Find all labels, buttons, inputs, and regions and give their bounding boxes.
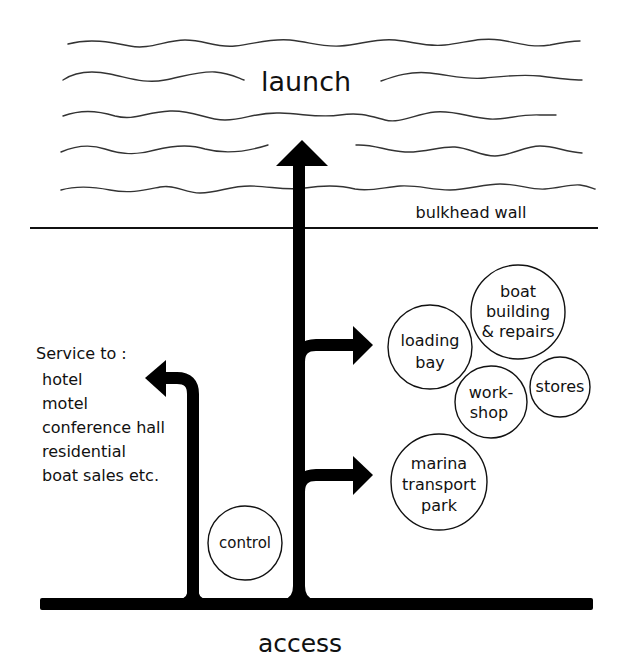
wave-row-2-left xyxy=(63,72,244,81)
wave-row-4-right xyxy=(356,145,582,156)
shaft-base-fillet xyxy=(284,586,314,599)
workshop-circle xyxy=(455,366,527,438)
water-waves xyxy=(61,39,595,193)
arrow-right-icon xyxy=(353,326,373,365)
node-label: bay xyxy=(415,353,444,372)
wave-row-3 xyxy=(63,111,556,121)
marina-flow-diagram: launch bulkhead wall Service to : hotel … xyxy=(0,0,621,663)
access-label: access xyxy=(258,629,342,658)
node-label: park xyxy=(421,496,458,515)
node-label: work- xyxy=(469,383,514,402)
wave-row-4-left xyxy=(61,145,268,154)
node-label: boat xyxy=(500,282,536,301)
launch-arrow xyxy=(276,140,328,600)
branch-arrow-shaft-1 xyxy=(299,345,355,362)
arrow-left-icon xyxy=(145,360,166,397)
node-control: control xyxy=(208,506,282,580)
wave-row-5 xyxy=(61,184,595,193)
service-item: residential xyxy=(42,442,126,461)
node-label: & repairs xyxy=(482,322,555,341)
service-base-fillet xyxy=(180,588,206,599)
wave-row-2-right xyxy=(381,73,582,81)
node-marina-transport-park: marina transport park xyxy=(391,434,487,530)
node-label: stores xyxy=(536,377,585,396)
service-item: conference hall xyxy=(42,418,165,437)
node-stores: stores xyxy=(530,357,590,417)
wave-row-1 xyxy=(68,39,580,47)
branch-arrow-loading-bay xyxy=(299,326,373,365)
branch-arrow-shaft-2 xyxy=(299,475,355,492)
service-list: Service to : hotel motel conference hall… xyxy=(36,344,165,485)
node-label: building xyxy=(486,302,550,321)
access-road-bar xyxy=(40,598,593,610)
node-label: transport xyxy=(402,475,476,494)
node-boat-building: boat building & repairs xyxy=(471,265,565,359)
node-workshop: work- shop xyxy=(455,366,527,438)
service-item: boat sales etc. xyxy=(42,466,159,485)
service-item: hotel xyxy=(42,370,83,389)
bulkhead-wall-label: bulkhead wall xyxy=(416,203,527,222)
service-item: motel xyxy=(42,394,88,413)
branch-arrow-marina xyxy=(299,456,373,495)
node-label: loading xyxy=(401,331,460,350)
launch-label: launch xyxy=(261,66,351,97)
arrow-right-icon xyxy=(353,456,373,495)
node-label: marina xyxy=(411,454,467,473)
node-loading-bay: loading bay xyxy=(388,305,472,389)
service-arrow-shaft xyxy=(164,378,193,600)
node-label: shop xyxy=(470,403,508,422)
arrow-up-icon xyxy=(276,140,328,166)
service-heading: Service to : xyxy=(36,344,127,363)
node-label: control xyxy=(219,534,271,552)
